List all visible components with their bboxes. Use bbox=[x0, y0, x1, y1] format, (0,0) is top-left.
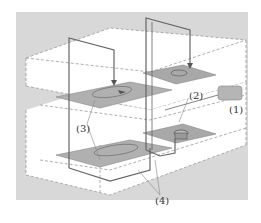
component-1 bbox=[218, 86, 242, 100]
isometric-diagram bbox=[0, 0, 261, 223]
label-4: (4) bbox=[155, 196, 169, 206]
label-3: (3) bbox=[76, 124, 90, 134]
label-1: (1) bbox=[229, 105, 243, 115]
label-2: (2) bbox=[189, 91, 203, 101]
